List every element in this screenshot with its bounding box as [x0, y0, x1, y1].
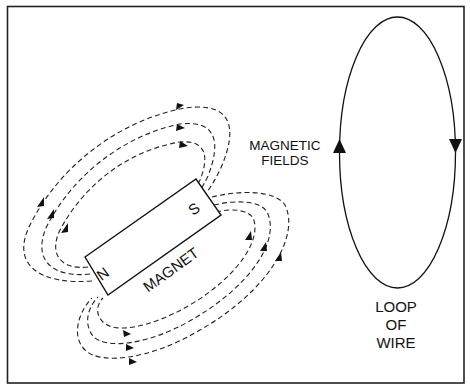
- magnetic-fields-label-line2: FIELDS: [261, 153, 308, 168]
- loop-label-line1: LOOP: [375, 298, 417, 315]
- loop-label-line3: WIRE: [376, 334, 415, 351]
- loop-label-line2: OF: [386, 316, 407, 333]
- magnetic-field-diagram: N S MAGNET MAGNETIC FIELDS LOOP OF WIRE: [0, 0, 470, 390]
- magnetic-fields-label-line1: MAGNETIC: [249, 138, 321, 153]
